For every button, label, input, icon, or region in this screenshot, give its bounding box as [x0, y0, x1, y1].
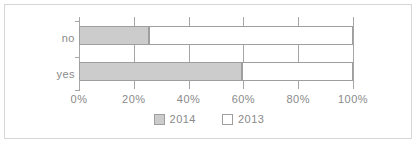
plot-area [79, 21, 353, 89]
gridline [353, 21, 354, 89]
legend-label-2014: 2014 [170, 113, 196, 125]
x-axis-tick [243, 17, 244, 22]
y-axis-label-yes: yes [15, 68, 75, 80]
legend-item-2014: 2014 [154, 113, 196, 125]
bar-segment-no-2013 [149, 26, 353, 45]
x-axis-tick-label: 60% [232, 93, 256, 105]
legend-item-2013: 2013 [222, 113, 264, 125]
x-axis-tick [189, 17, 190, 22]
x-axis-tick [134, 17, 135, 22]
legend-swatch-2013 [222, 114, 233, 125]
y-axis-labels: no yes [9, 5, 75, 105]
x-axis-tick-label: 40% [177, 93, 201, 105]
x-axis-tick-label: 100% [338, 93, 368, 105]
x-axis-tick-label: 20% [122, 93, 146, 105]
x-axis-labels: 0%20%40%60%80%100% [79, 93, 353, 109]
bar-row-no [79, 26, 353, 45]
bar-segment-yes-2013 [242, 62, 353, 81]
x-axis-tick [298, 17, 299, 22]
legend-label-2013: 2013 [238, 113, 264, 125]
y-axis-tick [75, 90, 80, 91]
bar-segment-yes-2014 [79, 62, 242, 81]
x-axis-tick [353, 17, 354, 22]
legend-swatch-2014 [154, 114, 165, 125]
y-axis-label-no: no [15, 32, 75, 44]
chart-frame: no yes 0%20%40%60%80%100% 2014 2013 [4, 4, 412, 139]
chart-legend: 2014 2013 [5, 113, 413, 125]
bar-row-yes [79, 62, 353, 81]
x-axis-tick [79, 17, 80, 22]
x-axis-tick-label: 80% [286, 93, 310, 105]
x-axis-tick-label: 0% [71, 93, 88, 105]
bar-segment-no-2014 [79, 26, 149, 45]
